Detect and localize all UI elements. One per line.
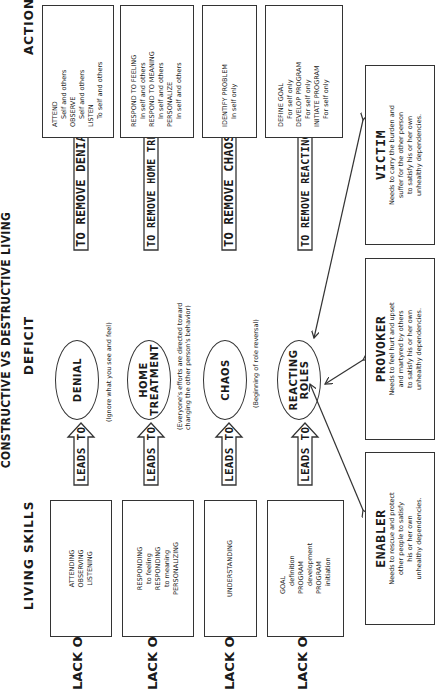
victim-link — [314, 120, 363, 338]
enabler-link — [310, 384, 363, 510]
role-box-enabler: ENABLER Needs to rescue and protect othe… — [365, 452, 435, 625]
provoker-link — [325, 360, 363, 384]
role-box-provoker: PROVOKER Needs to feel hurt and upset an… — [365, 258, 435, 440]
diagram-canvas: CONSTRUCTIVE VS DESTRUCTIVE LIVING LIVIN… — [0, 0, 441, 700]
role-box-victim: VICTIM Needs to carry the burden and suf… — [365, 65, 435, 245]
